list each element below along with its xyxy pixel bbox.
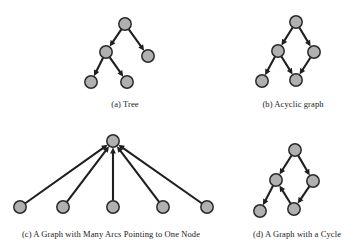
- caption-graph-with-cycle: (d) A Graph with a Cycle: [236, 229, 358, 239]
- graph-node: [157, 201, 169, 213]
- caption-many-arcs-one-node: (c) A Graph with Many Arcs Pointing to O…: [0, 229, 222, 239]
- graph-node: [121, 76, 133, 88]
- graph-node: [290, 16, 302, 28]
- edge-layer: [25, 28, 310, 206]
- graph-node: [288, 203, 300, 215]
- graph-edge: [264, 186, 273, 203]
- graph-node: [201, 201, 213, 213]
- graph-node: [256, 75, 268, 87]
- graph-node: [272, 45, 284, 57]
- graph-edge: [119, 149, 159, 202]
- graph-node: [119, 18, 131, 30]
- graph-edge: [67, 149, 107, 202]
- graph-edge: [298, 156, 308, 173]
- graph-types-figure: (a) Tree (b) Acyclic graph (c) A Graph w…: [0, 0, 358, 250]
- graph-node: [289, 144, 301, 156]
- graph-edge: [281, 155, 291, 171]
- graph-node: [142, 50, 154, 62]
- graph-node: [85, 76, 97, 88]
- node-layer: [14, 16, 320, 217]
- caption-acyclic-graph: (b) Acyclic graph: [228, 99, 358, 109]
- graph-node: [254, 205, 266, 217]
- graph-node: [107, 135, 119, 147]
- graph-edge: [110, 57, 122, 74]
- graph-node: [14, 201, 26, 213]
- graph-edge: [129, 29, 142, 48]
- edge-arrowhead: [110, 148, 116, 154]
- graph-node: [290, 74, 302, 86]
- caption-tree: (a) Tree: [50, 99, 200, 109]
- graph-node: [270, 174, 282, 186]
- graph-edge: [299, 28, 309, 44]
- graph-node: [308, 46, 320, 58]
- graph-node: [307, 175, 319, 187]
- graph-edge: [121, 147, 202, 204]
- graph-node: [107, 201, 119, 213]
- graph-edge: [25, 147, 105, 204]
- graph-node: [57, 201, 69, 213]
- graph-canvas: [0, 0, 358, 250]
- graph-node: [100, 46, 112, 58]
